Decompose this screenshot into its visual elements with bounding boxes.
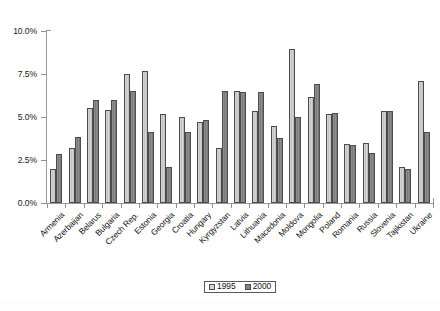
legend-item-1995: 1995 xyxy=(209,282,236,290)
legend-label-2000: 2000 xyxy=(253,282,272,290)
bar-lithuania-2000 xyxy=(258,92,264,203)
bar-slovenia-2000 xyxy=(387,111,393,203)
y-axis-tick-label: 10.0% xyxy=(13,26,37,36)
bar-mongolia-2000 xyxy=(314,84,320,203)
bar-hungary-2000 xyxy=(203,120,209,203)
bar-chart: 0.0%2.5%5.0%7.5%10.0% ArmeniaAzerbaijanB… xyxy=(0,0,440,311)
plot-area xyxy=(47,31,433,203)
legend-label-1995: 1995 xyxy=(217,282,236,290)
legend-item-2000: 2000 xyxy=(245,282,272,290)
y-axis-tick-label: 5.0% xyxy=(18,112,37,122)
dark-gray-swatch-icon xyxy=(245,284,251,290)
chart-legend: 1995 2000 xyxy=(204,281,276,293)
bar-bulgaria-2000 xyxy=(111,100,117,203)
bar-latvia-2000 xyxy=(240,92,246,203)
bar-belarus-2000 xyxy=(93,100,99,203)
bar-armenia-2000 xyxy=(56,154,62,203)
scan-artifact xyxy=(0,300,440,311)
y-axis-tick-label: 7.5% xyxy=(18,69,37,79)
light-gray-swatch-icon xyxy=(209,284,215,290)
bar-czechrep-2000 xyxy=(130,91,136,203)
y-axis-tick-label: 0.0% xyxy=(18,198,37,208)
x-axis-tick xyxy=(47,203,48,208)
y-axis-tick-label: 2.5% xyxy=(18,155,37,165)
bar-kyrgyzstan-2000 xyxy=(222,91,228,203)
